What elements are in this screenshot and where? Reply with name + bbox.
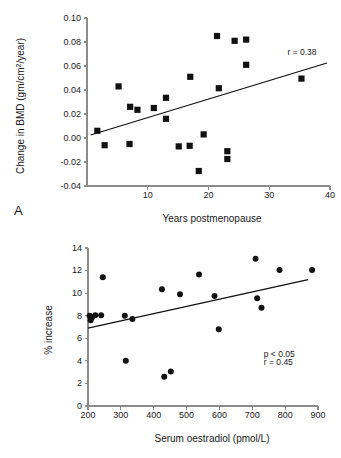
x-tick-label: 600 [212,410,227,420]
panel-a-axis-lines [87,18,330,186]
x-tick-label: 30 [264,190,274,200]
panel-a-svg: -0.04-0.020.000.020.040.060.080.10 10203… [0,0,341,230]
panel-a-axes [87,18,330,186]
data-point [163,95,169,101]
data-point [224,148,230,154]
x-tick-label: 10 [143,190,153,200]
data-point [309,267,315,273]
panel-b-y-axis-title: % increase [43,305,54,355]
y-tick-label: -0.04 [60,181,81,191]
figure-container: -0.04-0.020.000.020.040.060.080.10 10203… [0,0,341,458]
data-point [254,295,260,301]
data-point [127,104,133,110]
data-point [243,62,249,68]
data-point [122,313,128,319]
data-point [126,141,132,147]
y-tick-label: -0.02 [60,157,81,167]
panel-a-regression-line [91,63,327,135]
y-tick-label: 10 [72,288,82,298]
data-point [98,312,104,318]
chart-annotation: r = 0.45 [264,357,293,367]
data-point [196,168,202,174]
panel-b-svg: 02468101214 200300400500600700800900 p <… [0,230,341,458]
y-tick-label: 0.04 [63,85,81,95]
panel-a-scatter-chart: -0.04-0.020.000.020.040.060.080.10 10203… [0,0,341,230]
data-point [243,37,249,43]
data-point [224,156,230,162]
x-tick-label: 700 [245,410,260,420]
chart-annotation: r = 0.38 [287,47,316,57]
y-tick-label: 0.10 [63,13,81,23]
regression-line [88,280,308,329]
y-tick-label: 0 [77,401,82,411]
y-tick-label: 8 [77,311,82,321]
data-point [161,374,167,380]
panel-b-x-tick-group: 200300400500600700800900 [80,406,325,420]
panel-a-x-axis-title: Years postmenopause [162,213,262,224]
x-tick-label: 900 [310,410,325,420]
data-point [94,128,100,134]
data-point [201,131,207,137]
y-tick-label: 4 [77,356,82,366]
data-point [214,33,220,39]
x-tick-label: 500 [179,410,194,420]
x-tick-label: 200 [80,410,95,420]
data-point [212,293,218,299]
x-tick-label: 20 [203,190,213,200]
data-point [168,369,174,375]
data-point [129,316,135,322]
panel-b-x-axis-title: Serum oestradiol (pmol/L) [154,433,269,444]
data-point [187,143,193,149]
y-tick-label: 6 [77,333,82,343]
data-point [196,272,202,278]
regression-line [91,63,327,135]
data-point [115,83,121,89]
y-tick-label: 0.08 [63,37,81,47]
panel-a-data-points [94,33,304,174]
x-tick-label: 800 [278,410,293,420]
data-point [216,326,222,332]
data-point [102,142,108,148]
data-point [176,143,182,149]
panel-b-regression-line [88,280,308,329]
data-point [151,105,157,111]
panel-b-y-tick-group: 02468101214 [72,243,88,411]
panel-b-scatter-chart: 02468101214 200300400500600700800900 p <… [0,230,341,458]
data-point [92,312,98,318]
y-tick-label: 0.06 [63,61,81,71]
data-point [298,76,304,82]
data-point [216,85,222,91]
y-tick-label: 14 [72,243,82,253]
y-tick-label: 0.00 [63,133,81,143]
data-point [277,267,283,273]
panel-b-axis-lines [88,248,318,406]
x-tick-label: 300 [113,410,128,420]
x-tick-label: 40 [325,190,335,200]
panel-a-y-axis-title-pre: Change in BMD (gm/cm [15,67,26,174]
panel-a-y-tick-group: -0.04-0.020.000.020.040.060.080.10 [60,13,87,191]
y-tick-label: 0.02 [63,109,81,119]
data-point [258,305,264,311]
data-point [177,291,183,297]
y-tick-label: 2 [77,378,82,388]
data-point [134,107,140,113]
data-point [187,74,193,80]
data-point [123,358,129,364]
panel-b-annotations: p < 0.05r = 0.45 [264,349,295,367]
data-point [232,38,238,44]
data-point [100,274,106,280]
panel-a-y-axis-title: Change in BMD (gm/cm2/year) [15,38,26,174]
panel-a-label: A [14,203,23,218]
data-point [253,256,259,262]
panel-b-axes [88,248,318,406]
panel-a-annotations: r = 0.38 [287,47,316,57]
panel-a-x-tick-group: 10203040 [143,186,335,200]
x-tick-label: 400 [146,410,161,420]
panel-a-y-axis-title-post: /year) [15,38,26,64]
y-tick-label: 12 [72,265,82,275]
data-point [163,116,169,122]
data-point [159,286,165,292]
